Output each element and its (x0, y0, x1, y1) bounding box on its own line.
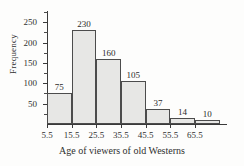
y-axis-tick-label: 200 (24, 38, 38, 47)
x-axis-tick (72, 124, 73, 128)
x-axis-tick-label: 5.5 (41, 130, 52, 140)
histogram-bar (146, 109, 171, 124)
y-axis-tick-label: 50 (28, 99, 37, 108)
y-axis-tick: 200 (43, 43, 48, 44)
x-axis-line (47, 124, 227, 125)
histogram-bar (195, 120, 220, 124)
y-axis-minor-tick (44, 73, 48, 74)
bar-value-label: 37 (153, 98, 162, 108)
y-axis-tick: 100 (43, 83, 48, 84)
x-axis-tick-label: 55.5 (162, 130, 178, 140)
histogram-figure: Frequency 50100150200250 5.515.525.535.5… (0, 0, 244, 166)
y-axis-tick: 250 (43, 22, 48, 23)
bar-value-label: 14 (178, 107, 187, 117)
histogram-bar (170, 118, 195, 124)
x-axis-tick (195, 124, 196, 128)
x-axis-tick (121, 124, 122, 128)
x-axis-tick (96, 124, 97, 128)
y-axis-minor-tick (44, 32, 48, 33)
histogram-bar (96, 59, 121, 124)
x-axis-tick-label: 35.5 (113, 130, 129, 140)
x-axis-tick-label: 25.5 (88, 130, 104, 140)
histogram-bar (47, 93, 72, 124)
x-axis-tick-label: 45.5 (138, 130, 154, 140)
x-axis-title: Age of viewers of old Westerns (0, 145, 244, 156)
x-axis-tick (47, 124, 48, 128)
x-axis-tick-label: 65.5 (187, 130, 203, 140)
y-axis-tick-label: 150 (24, 58, 38, 67)
bar-value-label: 10 (203, 109, 212, 119)
plot-area: 50100150200250 5.515.525.535.545.555.565… (47, 11, 227, 125)
y-axis-tick: 150 (43, 63, 48, 64)
x-axis-tick-label: 15.5 (64, 130, 80, 140)
y-axis-tick-label: 100 (24, 79, 38, 88)
bar-value-label: 75 (55, 82, 64, 92)
bar-value-label: 160 (102, 48, 116, 58)
x-axis-tick (170, 124, 171, 128)
y-axis-minor-tick (44, 12, 48, 13)
y-axis-tick-label: 250 (24, 18, 38, 27)
histogram-bar (72, 30, 97, 124)
y-axis-title: Frequency (8, 18, 18, 90)
bar-value-label: 105 (127, 70, 141, 80)
y-axis-minor-tick (44, 53, 48, 54)
x-axis-tick (146, 124, 147, 128)
bar-value-label: 230 (77, 19, 91, 29)
histogram-bar (121, 81, 146, 124)
